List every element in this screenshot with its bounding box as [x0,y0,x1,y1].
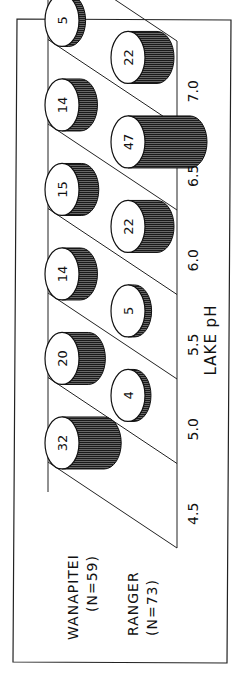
cylinder-bar: 14 [45,248,97,300]
tick-label: 7.0 [185,80,201,102]
x-axis-title: LAKE pH [202,305,220,376]
bar-value-label: 47 [121,134,136,151]
bar-value-label: 22 [121,49,136,66]
bar-value-label: 5 [55,16,70,24]
cylinder-chart: 5141514203222472254 4.55.05.56.06.57.0 L… [0,0,235,685]
bar-value-label: 14 [55,97,70,114]
cylinder-bar: 5 [111,285,152,337]
legend-ranger-name: RANGER [125,571,141,636]
cylinder-bar: 32 [45,417,121,469]
bin-divider [48,462,177,548]
bar-value-label: 32 [55,435,70,452]
plot-area: 5141514203222472254 [45,0,207,548]
tick-label: 5.0 [185,418,201,440]
cylinder-bar: 47 [111,116,207,168]
legend-ranger-n: (N=73) [144,579,160,636]
bar-value-label: 5 [121,307,136,315]
legend-wanapitei-n: (N=59) [84,555,100,612]
cylinder-bar: 4 [111,369,151,421]
bar-value-label: 14 [55,266,70,283]
cylinder-bar: 22 [111,200,174,252]
tick-label: 5.5 [185,334,201,356]
bar-value-label: 4 [121,391,136,399]
cylinder-bar: 14 [45,79,97,131]
cylinder-bar: 5 [45,0,86,46]
tick-label: 6.5 [185,165,201,187]
tick-label: 4.5 [185,503,201,525]
cylinder-bar: 15 [45,163,99,215]
legend-wanapitei-name: WANAPITEI [65,554,81,640]
cylinder-bar: 20 [45,332,105,384]
bar-value-label: 22 [121,218,136,235]
cylinder-bar: 22 [111,31,174,83]
bar-value-label: 15 [55,181,70,198]
bar-value-label: 20 [55,350,70,367]
legend: WANAPITEI (N=59) RANGER (N=73) [65,554,160,640]
tick-label: 6.0 [185,249,201,271]
